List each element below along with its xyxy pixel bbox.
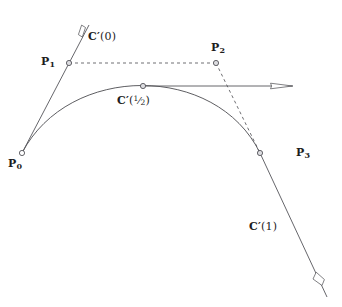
label-p1: P1 bbox=[41, 56, 55, 68]
arrowhead-c-prime-half bbox=[271, 83, 293, 89]
arrowhead-c-prime-1 bbox=[313, 272, 324, 285]
point-marker-curve-midpoint bbox=[140, 83, 145, 88]
tangent-line-c-prime-0 bbox=[22, 25, 89, 153]
point-marker-p1 bbox=[66, 60, 71, 65]
label-c-prime-half: C′(1⁄2) bbox=[117, 95, 150, 107]
label-p2: P2 bbox=[211, 42, 225, 54]
point-marker-p2 bbox=[213, 60, 218, 65]
label-c-prime-0: C′(0) bbox=[88, 31, 116, 42]
point-marker-p0 bbox=[19, 150, 24, 155]
control-polygon-p2-p3 bbox=[216, 63, 260, 153]
point-marker-p3 bbox=[257, 150, 262, 155]
label-p3: P3 bbox=[296, 147, 310, 159]
arrowhead-c-prime-0 bbox=[78, 25, 85, 37]
bezier-diagram-canvas bbox=[0, 0, 342, 307]
label-p0: P0 bbox=[8, 158, 22, 170]
bezier-figure: P0 P1 P2 P3 C′(0) C′(1⁄2) C′(1) bbox=[0, 0, 342, 307]
label-c-prime-1: C′(1) bbox=[249, 221, 277, 232]
